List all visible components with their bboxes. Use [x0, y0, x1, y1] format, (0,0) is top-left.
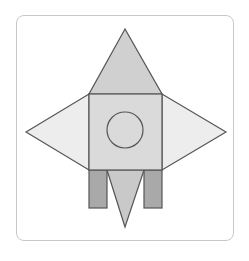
- left-leg-rectangle: [89, 170, 107, 208]
- right-wing-triangle: [162, 94, 226, 170]
- exhaust-triangle: [107, 170, 144, 227]
- rocket-diagram: [0, 0, 249, 261]
- right-leg-rectangle: [144, 170, 162, 208]
- nose-cone-triangle: [89, 29, 162, 94]
- left-wing-triangle: [26, 94, 89, 170]
- window-circle: [107, 112, 143, 148]
